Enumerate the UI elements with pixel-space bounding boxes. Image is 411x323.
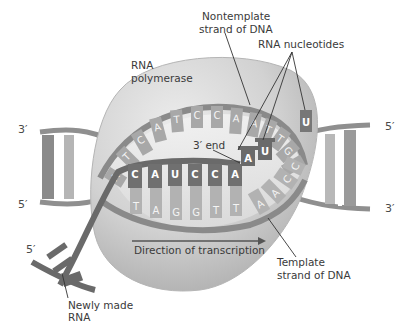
svg-text:T: T: [232, 203, 240, 214]
prime-rna-5: 5′: [26, 243, 36, 256]
label-template-2: strand of DNA: [277, 269, 351, 281]
label-nontemplate-1: Nontemplate: [202, 10, 270, 22]
newly-made-rna: [32, 242, 95, 290]
label-newly-made-2: RNA: [68, 311, 91, 323]
prime-right-top: 5′: [385, 120, 395, 133]
svg-text:U: U: [302, 117, 310, 128]
label-polymerase-1: RNA: [131, 59, 154, 71]
prime-left-top: 3′: [18, 123, 28, 136]
transcription-diagram: A T C A T C C A A T T G G T A G G T T A …: [0, 0, 411, 323]
svg-text:A: A: [231, 169, 239, 180]
svg-text:T: T: [132, 201, 140, 212]
svg-text:U: U: [261, 146, 269, 157]
svg-text:C: C: [194, 110, 201, 121]
label-nontemplate-2: strand of DNA: [199, 23, 273, 35]
svg-text:G: G: [192, 207, 200, 218]
svg-text:A: A: [232, 113, 240, 124]
svg-text:A: A: [153, 205, 160, 216]
label-newly-made-1: Newly made: [68, 299, 133, 311]
svg-text:T: T: [212, 205, 220, 216]
svg-text:C: C: [214, 110, 221, 121]
svg-text:A: A: [244, 153, 252, 164]
svg-text:C: C: [131, 169, 138, 180]
label-polymerase-2: polymerase: [131, 72, 193, 84]
svg-text:U: U: [171, 169, 179, 180]
prime-right-bottom: 3′: [385, 202, 395, 215]
label-direction: Direction of transcription: [134, 244, 265, 256]
svg-text:C: C: [211, 169, 218, 180]
prime-left-bottom: 5′: [18, 198, 28, 211]
svg-text:A: A: [151, 169, 159, 180]
label-3prime-end: 3′ end: [193, 139, 225, 151]
label-template-1: Template: [276, 256, 325, 268]
svg-text:G: G: [172, 207, 180, 218]
label-rna-nucleotides: RNA nucleotides: [258, 38, 344, 50]
svg-text:C: C: [191, 169, 198, 180]
